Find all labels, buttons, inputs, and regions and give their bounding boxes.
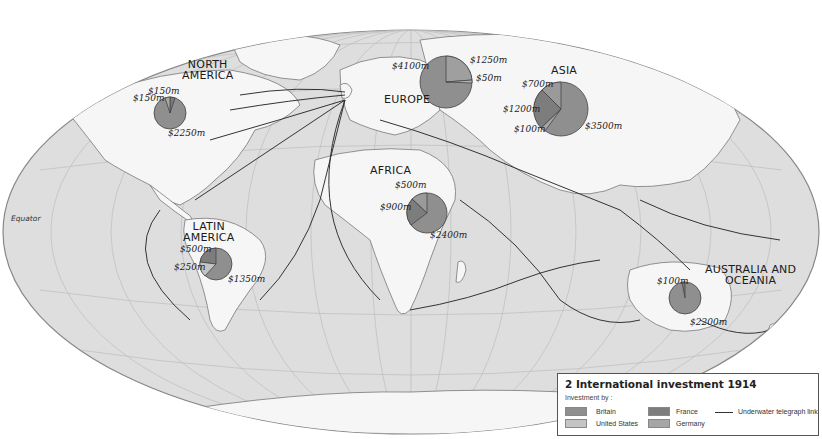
value-la-1: $500m [180, 244, 211, 254]
legend-label-united-states: United States [596, 420, 638, 427]
value-la-3: $1350m [228, 274, 265, 284]
value-asia-3: $100m [514, 124, 545, 134]
value-na-3: $2250m [168, 128, 205, 138]
equator-label: Equator [11, 214, 40, 223]
pie-australia [669, 282, 701, 314]
value-asia-4: $3500m [585, 121, 622, 131]
legend-label-france: France [676, 408, 698, 415]
label-north-america: NORTH AMERICA [182, 59, 233, 81]
label-europe: EUROPE [384, 94, 430, 105]
swatch-france [648, 407, 670, 416]
swatch-germany [648, 419, 670, 428]
value-asia-1: $700m [522, 79, 553, 89]
value-asia-2: $1200m [503, 104, 540, 114]
legend-label-germany: Germany [676, 420, 705, 427]
telegraph-line-icon [715, 412, 733, 413]
value-af-2: $900m [380, 202, 411, 212]
legend-subtitle: Investment by : [565, 394, 612, 401]
pie-africa [407, 193, 447, 233]
value-au-2: $2200m [690, 317, 727, 327]
label-latin-america: LATIN AMERICA [183, 221, 234, 243]
value-la-2: $250m [174, 262, 205, 272]
value-eu-2: $1250m [470, 55, 507, 65]
legend-title: 2 International investment 1914 [565, 378, 757, 390]
value-eu-3: $50m [476, 73, 502, 83]
value-eu-1: $4100m [392, 61, 429, 71]
value-af-3: $2400m [430, 230, 467, 240]
legend-label-telegraph: Underwater telegraph link [738, 408, 818, 415]
swatch-united-states [565, 419, 587, 428]
value-na-2: $150m [133, 93, 164, 103]
swatch-britain [565, 407, 587, 416]
label-africa: AFRICA [370, 165, 411, 176]
legend: 2 International investment 1914 Investme… [557, 373, 819, 436]
legend-label-britain: Britain [596, 408, 616, 415]
value-au-1: $100m [657, 276, 688, 286]
label-asia: ASIA [551, 65, 577, 76]
value-af-1: $500m [395, 180, 426, 190]
label-australia: AUSTRALIA AND OCEANIA [705, 264, 796, 286]
